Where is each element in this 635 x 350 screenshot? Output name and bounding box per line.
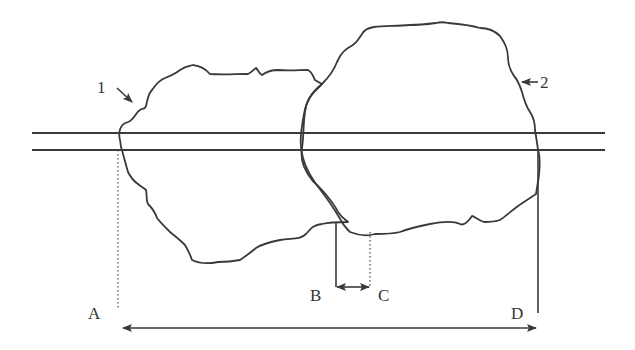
- label-a: A: [88, 305, 100, 322]
- label-c: C: [378, 287, 389, 304]
- particle-2-outline: [301, 22, 540, 235]
- label-d: D: [511, 305, 523, 322]
- label-b: B: [310, 287, 321, 304]
- label-particle-1: 1: [97, 79, 106, 96]
- particle-1-outline: [119, 65, 348, 263]
- arrow-1-pointer: [117, 88, 132, 102]
- label-particle-2: 2: [540, 74, 549, 91]
